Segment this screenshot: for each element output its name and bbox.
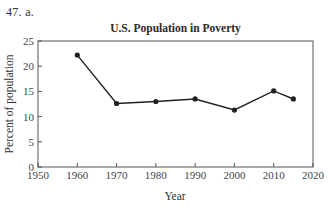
x-tick-label: 1990 <box>184 169 207 181</box>
x-tick-label: 2020 <box>302 169 325 181</box>
data-series <box>75 53 296 113</box>
data-point-marker <box>114 101 119 106</box>
data-point-marker <box>232 107 237 112</box>
data-point-marker <box>75 53 80 58</box>
y-tick-label: 10 <box>23 111 35 123</box>
y-tick-label: 15 <box>23 85 35 97</box>
x-tick-label: 2000 <box>223 169 246 181</box>
y-tick-label: 5 <box>29 136 35 148</box>
x-axis-ticks: 19501960197019801990200020102020 <box>27 163 325 181</box>
x-tick-label: 2010 <box>263 169 286 181</box>
y-axis-ticks: 0510152025 <box>23 35 42 173</box>
series-line <box>77 55 293 110</box>
y-tick-label: 0 <box>29 161 35 173</box>
y-tick-label: 25 <box>23 35 35 47</box>
data-point-marker <box>153 99 158 104</box>
x-tick-label: 1970 <box>106 169 129 181</box>
x-tick-label: 1960 <box>66 169 89 181</box>
plot-border <box>38 41 313 167</box>
data-point-marker <box>271 88 276 93</box>
data-point-marker <box>291 96 296 101</box>
plot-frame <box>38 41 313 167</box>
line-chart: 19501960197019801990200020102020 0510152… <box>0 0 332 212</box>
x-tick-label: 1980 <box>145 169 168 181</box>
data-point-marker <box>193 96 198 101</box>
y-tick-label: 20 <box>23 60 35 72</box>
